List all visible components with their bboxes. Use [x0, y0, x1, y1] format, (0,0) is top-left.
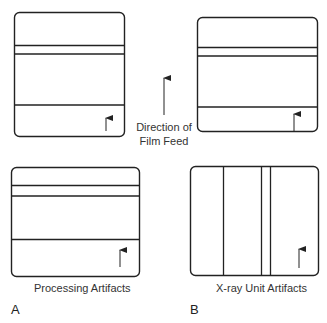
- film-bottom-left: [12, 168, 140, 277]
- direction-label: Direction of Film Feed: [128, 120, 200, 148]
- film-bottom-right: [191, 167, 319, 276]
- panel-letter-b: B: [190, 302, 199, 317]
- caption-a: Processing Artifacts: [34, 282, 131, 294]
- direction-label-line2: Film Feed: [128, 134, 200, 148]
- direction-label-line1: Direction of: [128, 120, 200, 134]
- caption-b: X-ray Unit Artifacts: [216, 282, 307, 294]
- film-top-left: [15, 13, 125, 137]
- diagram-canvas: [0, 0, 327, 323]
- film-top-right: [198, 18, 318, 132]
- panel-letter-a: A: [11, 302, 20, 317]
